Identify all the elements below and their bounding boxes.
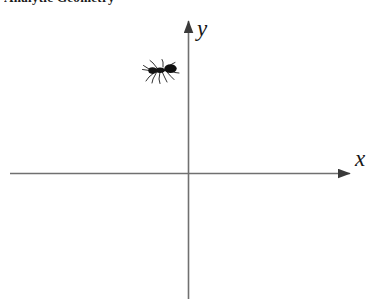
- x-axis-label: x: [355, 147, 365, 170]
- y-axis-label: y: [197, 17, 207, 40]
- diagram-canvas: Analytic Geometry y x: [0, 0, 383, 299]
- ant-icon: [138, 56, 186, 88]
- coordinate-axes: [0, 0, 383, 299]
